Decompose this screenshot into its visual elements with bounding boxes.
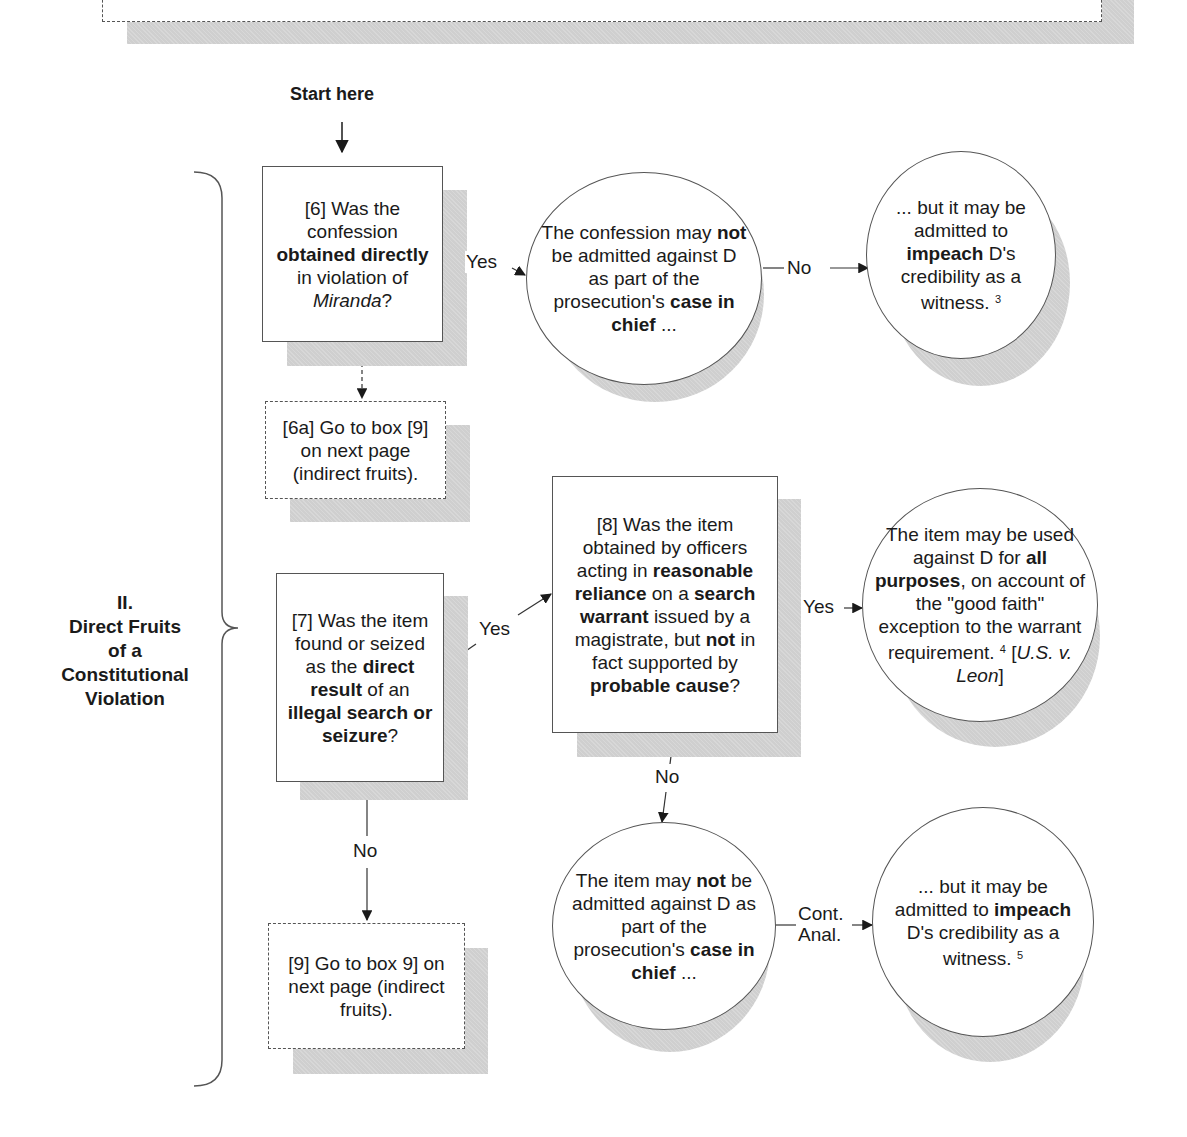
question-box-8[interactable]: [8] Was the item obtained by officers ac… (552, 476, 778, 733)
text: [ (1006, 642, 1017, 663)
edge-label-line: Anal. (798, 924, 843, 945)
outcome-impeach-confession[interactable]: ... but it may be admitted to impeach D'… (866, 151, 1056, 359)
text: of an (362, 679, 410, 700)
emphasis: not (717, 222, 747, 243)
emphasis: illegal search or seizure (288, 702, 433, 746)
edge-label-cont-anal: Cont. Anal. (797, 903, 844, 945)
case-name: Miranda (313, 290, 382, 311)
emphasis: probable cause (590, 675, 729, 696)
emphasis: impeach (994, 899, 1071, 920)
edge-label-no: No (786, 257, 812, 279)
question-box-6[interactable]: [6] Was the confession obtained directly… (262, 166, 443, 342)
text: ? (387, 725, 398, 746)
goto-box-9[interactable]: [9] Go to box 9] on next page (indirect … (268, 923, 465, 1049)
text: The item may (576, 870, 696, 891)
outcome-item-excluded[interactable]: The item may not be admitted against D a… (552, 822, 776, 1030)
edge-label-no: No (352, 840, 378, 862)
box-id: [7] (292, 610, 313, 631)
edge-label-yes: Yes (465, 251, 498, 273)
text: ... but it may be admitted to (896, 197, 1026, 241)
box-id: [6] (305, 198, 326, 219)
edge-label-line: Cont. (798, 903, 843, 924)
emphasis: impeach (906, 243, 983, 264)
goto-text: [9] Go to box 9] on next page (indirect … (269, 952, 464, 1021)
text: on a (647, 583, 695, 604)
text: D's credibility as a witness. (907, 922, 1060, 969)
goto-box-6a[interactable]: [6a] Go to box [9] on next page (indirec… (265, 401, 446, 499)
edge-label-no: No (654, 766, 680, 788)
goto-text: [6a] Go to box [9] on next page (indirec… (266, 416, 445, 485)
text: ... (676, 962, 697, 983)
section-brace (194, 172, 238, 1086)
edge-label-yes: Yes (802, 596, 835, 618)
text: ? (729, 675, 740, 696)
emphasis: not (696, 870, 726, 891)
emphasis: obtained directly (276, 244, 428, 265)
footnote-ref: 5 (1017, 949, 1023, 961)
text: ... (656, 314, 677, 335)
text: ] (999, 665, 1004, 686)
outcome-impeach-item[interactable]: ... but it may be admitted to impeach D'… (872, 807, 1094, 1037)
emphasis: not (706, 629, 736, 650)
outcome-confession-excluded[interactable]: The confession may not be admitted again… (526, 172, 762, 385)
text: in violation of (297, 267, 408, 288)
footnote-ref: 3 (995, 293, 1001, 305)
text: ? (382, 290, 393, 311)
edge-label-yes: Yes (478, 618, 511, 640)
text: The confession may (542, 222, 717, 243)
question-box-7[interactable]: [7] Was the item found or seized as the … (276, 573, 444, 782)
outcome-good-faith-exception[interactable]: The item may be used against D for all p… (862, 488, 1098, 722)
